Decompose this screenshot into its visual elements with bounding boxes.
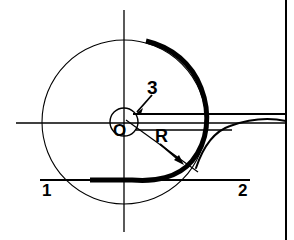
label-2: 2 [238, 182, 247, 199]
label-1: 1 [42, 182, 51, 199]
label-radius: R [155, 127, 168, 145]
label-3: 3 [147, 78, 158, 97]
diagram-canvas [0, 0, 294, 240]
spiral-diagram-figure: 3 O R 1 2 [0, 0, 294, 240]
thin-tail-curve [196, 119, 286, 168]
label-origin: O [113, 122, 126, 139]
thick-spiral-curve [90, 41, 207, 180]
